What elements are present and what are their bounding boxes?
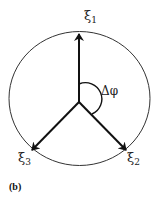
vector-xi2-arrow [79, 102, 126, 150]
xi3-label: ξ3 [18, 150, 31, 167]
xi1-label: ξ1 [84, 8, 97, 25]
vector-xi3-arrow [32, 102, 79, 150]
angle-label: Δφ [101, 84, 118, 98]
panel-label: (b) [9, 181, 21, 193]
xi2-label: ξ2 [127, 150, 140, 167]
phasor-diagram: Δφ ξ1 ξ2 ξ3 (b) [0, 0, 158, 197]
angle-arc [79, 83, 102, 114]
